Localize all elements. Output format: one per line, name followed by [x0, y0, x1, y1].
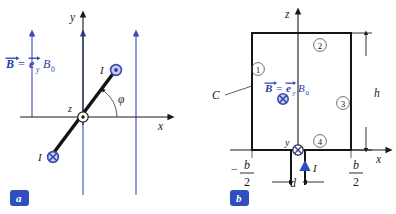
- origin-symbol-b: [293, 145, 303, 155]
- segment-label-3: 3: [341, 99, 346, 109]
- current-label-b: I: [312, 162, 318, 174]
- field-equals-a: =: [18, 57, 25, 71]
- axis-label-x-a: x: [157, 120, 164, 132]
- axis-label-z-b: z: [284, 8, 290, 20]
- physics-figure: y x z φ I I B = e y B 0: [0, 0, 396, 214]
- field-direction-symbol-b: [278, 94, 288, 104]
- segment-marker-1: 1: [252, 63, 265, 76]
- contour-loop-c: [252, 33, 351, 185]
- field-e-subscript-a: y: [35, 65, 40, 74]
- dimension-left-numerator: b: [244, 158, 250, 172]
- current-label-top-a: I: [99, 64, 105, 76]
- dimension-right-numerator: b: [353, 158, 359, 172]
- segment-label-2: 2: [318, 41, 323, 51]
- current-label-bottom-a: I: [37, 151, 43, 163]
- panel-a: y x z φ I I B = e y B 0: [5, 11, 168, 206]
- dimension-h: [351, 33, 372, 150]
- segment-label-1: 1: [256, 65, 261, 75]
- current-arrow-b: [299, 160, 310, 171]
- angle-arc-phi: [104, 91, 117, 117]
- panel-b: 1 2 3 4: [212, 8, 386, 206]
- field-equation-a: B = e y B 0: [5, 56, 55, 73]
- dimension-label-left-b2: − b 2: [231, 158, 254, 189]
- panel-badge-b: b: [230, 190, 249, 206]
- dimension-label-d: d: [290, 177, 296, 189]
- field-magnitude-subscript-a: 0: [51, 65, 55, 74]
- field-magnitude-subscript-b: 0: [306, 89, 310, 97]
- dimension-right-denominator: 2: [353, 175, 359, 189]
- axis-label-x-b: x: [375, 153, 382, 165]
- panel-badge-label-b: b: [236, 192, 242, 204]
- panel-badge-a: a: [10, 190, 29, 206]
- panel-badge-label-a: a: [16, 192, 22, 204]
- field-e-symbol-a: e: [29, 57, 35, 71]
- field-magnitude-b: B: [298, 82, 305, 94]
- dimension-left-denominator: 2: [244, 175, 250, 189]
- contour-label-c: C: [212, 89, 220, 101]
- axis-label-z-a: z: [67, 103, 72, 114]
- field-e-subscript-b: y: [292, 89, 297, 97]
- dimension-label-h: h: [374, 87, 380, 99]
- axis-label-y-a: y: [69, 11, 76, 24]
- segment-label-4: 4: [318, 137, 323, 147]
- angle-label-phi: φ: [118, 93, 125, 106]
- dimension-label-right-b2: b 2: [349, 158, 363, 189]
- dimension-left-sign: −: [231, 162, 238, 176]
- segment-marker-4: 4: [314, 135, 327, 148]
- current-symbol-into-page-a: [48, 152, 59, 163]
- svg-text:B: B: [5, 57, 14, 71]
- field-equals-b: =: [276, 82, 282, 94]
- field-b-symbol-a: B: [5, 57, 14, 71]
- segment-marker-3: 3: [337, 97, 350, 110]
- axis-label-y-b: y: [284, 137, 290, 148]
- contour-leader-line: [225, 86, 252, 95]
- segment-marker-2: 2: [314, 39, 327, 52]
- origin-symbol-a: [78, 112, 88, 122]
- current-symbol-out-of-page-a: [111, 65, 122, 76]
- field-magnitude-a: B: [43, 57, 51, 71]
